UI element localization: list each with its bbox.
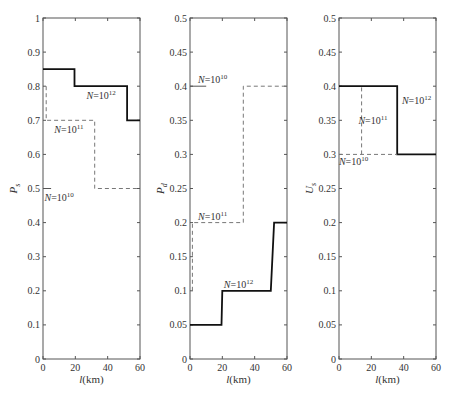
y-tick-label: 0.05 <box>319 319 337 330</box>
y-tick-label: 0.05 <box>170 319 188 330</box>
series-line <box>190 223 287 325</box>
y-tick-label: 0.2 <box>175 217 188 228</box>
x-tick-label: 0 <box>188 362 193 373</box>
x-tick-label: 40 <box>250 362 260 373</box>
y-tick-label: 0.1 <box>28 319 41 330</box>
y-tick-label: 0.3 <box>28 251 41 262</box>
axes-frame <box>339 18 436 359</box>
y-tick-label: 0.5 <box>175 13 188 24</box>
y-axis-label: Ps <box>7 184 22 195</box>
y-tick-label: 0.2 <box>324 217 337 228</box>
y-tick-label: 0 <box>331 354 336 365</box>
x-tick-label: 60 <box>135 362 145 373</box>
series-annotation: N=1011 <box>357 114 388 126</box>
y-axis-label: Pd <box>154 182 169 195</box>
y-tick-label: 0.1 <box>175 285 188 296</box>
y-tick-label: 0.45 <box>170 47 188 58</box>
y-tick-label: 0 <box>35 354 40 365</box>
axes-frame <box>190 18 287 359</box>
y-tick-label: 0.25 <box>319 183 337 194</box>
y-axis-label: Us <box>303 183 318 194</box>
y-tick-label: 0.6 <box>28 149 41 160</box>
x-tick-label: 40 <box>399 362 409 373</box>
y-tick-label: 0.4 <box>28 217 41 228</box>
series-annotation: N=1010 <box>338 155 369 167</box>
x-tick-label: 20 <box>217 362 227 373</box>
y-tick-label: 0.3 <box>324 149 337 160</box>
y-tick-label: 0.45 <box>319 47 337 58</box>
x-axis-label: l(km) <box>375 373 400 386</box>
series-annotation: N=1012 <box>223 278 254 290</box>
series-annotation: N=1011 <box>53 123 84 135</box>
y-tick-label: 0 <box>182 354 187 365</box>
y-tick-label: 0.4 <box>175 81 188 92</box>
x-tick-label: 40 <box>103 362 113 373</box>
x-tick-label: 60 <box>431 362 441 373</box>
x-tick-label: 60 <box>282 362 292 373</box>
y-tick-label: 0.7 <box>28 115 41 126</box>
series-annotation: N=1012 <box>401 94 432 106</box>
x-tick-label: 0 <box>41 362 46 373</box>
y-tick-label: 0.35 <box>170 115 188 126</box>
x-tick-label: 20 <box>366 362 376 373</box>
chart-panel-3: 00.050.10.150.20.250.30.350.40.450.50204… <box>303 13 441 387</box>
y-tick-label: 0.1 <box>324 285 337 296</box>
y-tick-label: 0.25 <box>170 183 188 194</box>
figure: 00.10.20.30.40.50.60.70.80.910204060l(km… <box>0 0 451 396</box>
series-annotation: N=1012 <box>86 89 117 101</box>
series-annotation: N=1011 <box>197 210 228 222</box>
x-tick-label: 0 <box>337 362 342 373</box>
y-tick-label: 0.9 <box>28 47 41 58</box>
y-tick-label: 0.8 <box>28 81 41 92</box>
x-axis-label: l(km) <box>79 373 104 386</box>
y-tick-label: 0.35 <box>319 115 337 126</box>
x-tick-label: 20 <box>70 362 80 373</box>
x-axis-label: l(km) <box>226 373 251 386</box>
series-annotation: N=1010 <box>197 73 228 85</box>
y-tick-label: 0.5 <box>28 183 41 194</box>
series-annotation: N=1010 <box>44 191 75 203</box>
y-tick-label: 0.2 <box>28 285 41 296</box>
y-tick-label: 0.3 <box>175 149 188 160</box>
y-tick-label: 0.4 <box>324 81 337 92</box>
y-tick-label: 1 <box>35 13 40 24</box>
y-tick-label: 0.15 <box>170 251 188 262</box>
series-line <box>46 86 140 188</box>
y-tick-label: 0.5 <box>324 13 337 24</box>
y-tick-label: 0.15 <box>319 251 337 262</box>
chart-panel-2: 00.050.10.150.20.250.30.350.40.450.50204… <box>154 13 292 387</box>
chart-panel-1: 00.10.20.30.40.50.60.70.80.910204060l(km… <box>7 13 145 387</box>
